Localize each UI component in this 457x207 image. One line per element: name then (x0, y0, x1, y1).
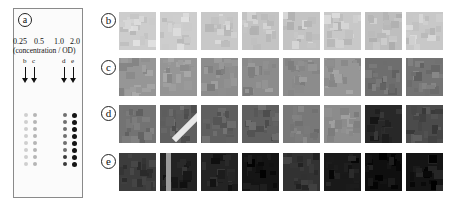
blot-dot (72, 127, 77, 132)
blot-dot (72, 120, 77, 125)
blot-dot (33, 134, 37, 138)
blot-dot (24, 141, 28, 145)
blot-dot (63, 134, 67, 138)
image-tile-e-7 (365, 153, 402, 191)
image-tile-b-1 (119, 12, 156, 50)
image-tile-c-6 (324, 58, 361, 96)
blot-dot (24, 120, 28, 124)
blot-dot (33, 162, 37, 166)
image-tile-b-7 (365, 12, 402, 50)
row-label-b: b (101, 13, 116, 28)
image-tile-d-8 (406, 105, 443, 143)
image-tile-b-2 (160, 12, 197, 50)
image-tile-d-7 (365, 105, 402, 143)
image-tile-e-1 (119, 153, 156, 191)
blot-dot (24, 148, 28, 152)
image-tile-c-5 (283, 58, 320, 96)
image-tile-d-6 (324, 105, 361, 143)
blot-dot (63, 113, 67, 117)
blot-dot (24, 162, 28, 166)
conc-0.5: 0.5 (34, 37, 44, 46)
image-tile-d-2 (160, 105, 197, 143)
blot-dot (63, 162, 67, 166)
image-tile-c-7 (365, 58, 402, 96)
blot-dot (24, 155, 28, 159)
blot-dot (33, 141, 37, 145)
image-tile-b-4 (242, 12, 279, 50)
arrow-down-icon (25, 67, 26, 79)
image-tile-d-5 (283, 105, 320, 143)
image-tile-b-5 (283, 12, 320, 50)
concentration-caption: (concentration / OD) (13, 46, 75, 55)
blot-dot (63, 141, 67, 145)
image-tile-e-4 (242, 153, 279, 191)
panel-a-label: a (18, 13, 32, 27)
blot-dot (24, 127, 28, 131)
image-tile-e-8 (406, 153, 443, 191)
blot-dot (63, 120, 67, 124)
row-label-e: e (101, 154, 116, 169)
blot-dot (63, 148, 67, 152)
blot-dot (72, 155, 77, 160)
blot-dot (72, 134, 77, 139)
image-tile-b-8 (406, 12, 443, 50)
image-tile-c-4 (242, 58, 279, 96)
blot-dot (33, 155, 37, 159)
blot-dot (24, 113, 28, 117)
image-tile-c-8 (406, 58, 443, 96)
blot-dot (33, 113, 37, 117)
blot-dot (72, 141, 77, 146)
image-tile-d-4 (242, 105, 279, 143)
col-label-b: b (23, 57, 27, 65)
image-tile-e-5 (283, 153, 320, 191)
arrow-down-icon (73, 67, 74, 79)
image-tile-b-6 (324, 12, 361, 50)
blot-dot (24, 134, 28, 138)
panel-a: a 0.25 0.5 1.0 2.0 (concentration / OD) … (13, 8, 83, 198)
col-label-c: c (32, 57, 35, 65)
arrow-down-icon (34, 67, 35, 79)
blot-dot (33, 148, 37, 152)
image-tile-c-2 (160, 58, 197, 96)
image-tile-d-1 (119, 105, 156, 143)
blot-dot (63, 127, 67, 131)
blot-dot (72, 148, 77, 153)
image-tile-e-2 (160, 153, 197, 191)
row-label-c: c (101, 60, 116, 75)
blot-dot (72, 113, 77, 118)
row-label-d: d (101, 106, 116, 121)
image-tile-e-3 (201, 153, 238, 191)
image-tile-c-3 (201, 58, 238, 96)
blot-dot (33, 120, 37, 124)
conc-0.25: 0.25 (13, 37, 27, 46)
blot-dot (72, 162, 77, 167)
col-label-d: d (62, 57, 66, 65)
blot-dot (33, 127, 37, 131)
image-tile-b-3 (201, 12, 238, 50)
col-label-e: e (71, 57, 74, 65)
image-tile-e-6 (324, 153, 361, 191)
conc-1.0: 1.0 (54, 37, 64, 46)
image-tile-c-1 (119, 58, 156, 96)
blot-dot (63, 155, 67, 159)
conc-2.0: 2.0 (70, 37, 80, 46)
image-tile-d-3 (201, 105, 238, 143)
arrow-down-icon (64, 67, 65, 79)
